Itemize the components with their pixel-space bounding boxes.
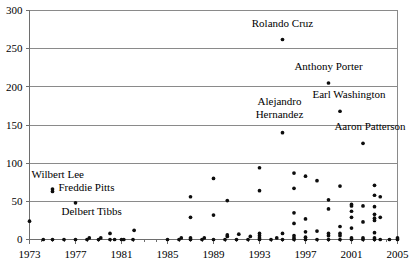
data-point bbox=[225, 233, 229, 237]
data-point bbox=[248, 235, 252, 239]
data-point bbox=[292, 211, 296, 215]
data-point bbox=[212, 213, 216, 217]
data-point bbox=[315, 229, 319, 233]
x-tick-label-1997: 1997 bbox=[295, 248, 318, 260]
data-point bbox=[338, 225, 342, 229]
data-point bbox=[237, 232, 241, 236]
data-point bbox=[269, 238, 273, 242]
data-point bbox=[373, 183, 377, 187]
data-point bbox=[179, 236, 183, 240]
x-tick-label-1985: 1985 bbox=[157, 248, 180, 260]
annotation-label: Delbert Tibbs bbox=[62, 205, 122, 217]
data-point bbox=[166, 238, 170, 242]
annotation-label: Aaron Patterson bbox=[334, 120, 406, 132]
data-point bbox=[338, 232, 342, 236]
data-point bbox=[373, 205, 377, 209]
data-point bbox=[378, 238, 382, 242]
data-point bbox=[246, 238, 250, 242]
data-point bbox=[361, 220, 365, 224]
x-tick-label-1973: 1973 bbox=[19, 248, 42, 260]
data-point bbox=[378, 216, 382, 220]
data-point bbox=[304, 230, 308, 234]
data-point bbox=[378, 195, 382, 199]
annotation-label: Freddie Pitts bbox=[59, 181, 115, 193]
data-point bbox=[28, 219, 32, 223]
data-point bbox=[258, 232, 262, 236]
data-point bbox=[108, 232, 112, 236]
y-tick-label-300: 300 bbox=[6, 4, 23, 16]
data-point bbox=[327, 238, 331, 242]
chart-plot-area: 050100150200250300 197319771981198519891… bbox=[0, 0, 413, 272]
data-point bbox=[338, 109, 342, 113]
data-point bbox=[350, 216, 354, 220]
data-point bbox=[87, 236, 91, 240]
data-point bbox=[361, 141, 365, 145]
data-point bbox=[189, 195, 193, 199]
data-point bbox=[315, 238, 319, 242]
data-point bbox=[292, 187, 296, 191]
x-tick-label-2001: 2001 bbox=[341, 248, 363, 260]
data-point bbox=[361, 236, 365, 240]
annotation-label: Wilbert Lee bbox=[32, 168, 85, 180]
y-tick-label-100: 100 bbox=[6, 157, 23, 169]
annotation-label: Rolando Cruz bbox=[252, 17, 314, 29]
annotation-label: Hernandez bbox=[256, 108, 304, 120]
data-point bbox=[373, 216, 377, 220]
data-point bbox=[304, 217, 308, 221]
scatter-chart: 050100150200250300 197319771981198519891… bbox=[0, 0, 413, 272]
y-axis-tick-labels: 050100150200250300 bbox=[6, 4, 23, 245]
data-point bbox=[258, 166, 262, 170]
x-tick-label-2005: 2005 bbox=[387, 248, 410, 260]
data-point bbox=[99, 236, 103, 240]
x-tick-label-1993: 1993 bbox=[249, 248, 272, 260]
data-point bbox=[292, 171, 296, 175]
data-point bbox=[373, 231, 377, 235]
data-point bbox=[373, 212, 377, 216]
data-point bbox=[202, 236, 206, 240]
data-point bbox=[275, 236, 279, 240]
data-point bbox=[292, 234, 296, 238]
data-point bbox=[327, 232, 331, 236]
data-point bbox=[212, 177, 216, 181]
data-point bbox=[51, 187, 55, 191]
data-point bbox=[62, 238, 66, 242]
x-axis-tick-labels: 197319771981198519891993199720012005 bbox=[19, 248, 410, 260]
data-point bbox=[315, 179, 319, 183]
annotation-label: Earl Washington bbox=[312, 88, 386, 100]
data-point bbox=[350, 226, 354, 230]
annotation-label: Alejandro bbox=[258, 95, 302, 107]
data-point bbox=[281, 38, 285, 42]
data-point bbox=[350, 236, 354, 240]
data-point bbox=[132, 228, 136, 232]
data-point bbox=[223, 238, 227, 242]
data-point bbox=[281, 238, 285, 242]
data-point bbox=[131, 238, 135, 242]
data-point bbox=[338, 184, 342, 188]
x-tick-label-1989: 1989 bbox=[203, 248, 226, 260]
y-tick-label-150: 150 bbox=[6, 119, 23, 131]
data-point bbox=[327, 81, 331, 85]
data-point bbox=[225, 199, 229, 203]
x-tick-label-1977: 1977 bbox=[65, 248, 88, 260]
data-point bbox=[304, 174, 308, 178]
data-point bbox=[108, 238, 112, 242]
data-point bbox=[292, 222, 296, 226]
data-point bbox=[373, 193, 377, 197]
data-point bbox=[74, 238, 78, 242]
data-point bbox=[327, 207, 331, 211]
annotations-group: Rolando CruzAnthony PorterEarl Washingto… bbox=[32, 17, 407, 217]
data-point bbox=[113, 238, 117, 242]
data-point bbox=[212, 238, 216, 242]
data-point bbox=[373, 236, 377, 240]
x-tick-label-1981: 1981 bbox=[111, 248, 133, 260]
data-point bbox=[281, 131, 285, 135]
data-point bbox=[51, 238, 55, 242]
data-point bbox=[41, 238, 45, 242]
data-point bbox=[338, 238, 342, 242]
data-point bbox=[388, 238, 392, 242]
data-point bbox=[350, 203, 354, 207]
data-point bbox=[396, 236, 400, 240]
y-tick-label-200: 200 bbox=[6, 81, 23, 93]
data-point bbox=[189, 236, 193, 240]
y-tick-label-50: 50 bbox=[12, 195, 24, 207]
